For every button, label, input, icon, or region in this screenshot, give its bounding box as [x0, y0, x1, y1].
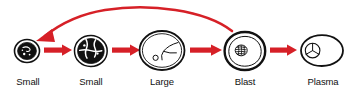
- blast-cell-icon: [225, 32, 266, 70]
- label-line-1: Blast: [217, 77, 273, 88]
- small-cleaved-cell-icon: [75, 36, 108, 67]
- label-line-1: Small: [0, 77, 56, 88]
- stage-label-small-cleaved: Small cleaved: [62, 66, 120, 97]
- label-line-1: Plasma: [294, 77, 352, 88]
- label-line-1: Large: [133, 77, 191, 88]
- arrow-3: [190, 45, 222, 56]
- large-cleaved-cell-icon: [140, 31, 185, 70]
- cell-progression-diagram: Small round Small cleaved Large cleaved …: [0, 0, 355, 97]
- feedback-arrow: [36, 7, 232, 42]
- arrow-2: [112, 45, 140, 56]
- plasma-cell-icon: [301, 35, 343, 66]
- stage-label-blast-cells: Blast cells: [217, 66, 273, 97]
- small-round-cell-icon: [15, 40, 40, 63]
- label-line-1: Small: [62, 77, 120, 88]
- arrow-4: [270, 45, 297, 56]
- arrow-1: [44, 45, 72, 56]
- stage-label-large-cleaved: Large cleaved: [133, 66, 191, 97]
- stage-label-plasma-cells: Plasma cells: [294, 66, 352, 97]
- stage-label-small-round: Small round: [0, 66, 56, 97]
